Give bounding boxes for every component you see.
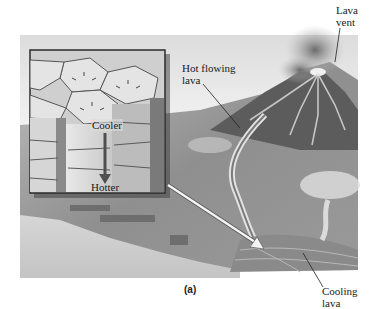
hot-flowing-lava-label-line2: lava: [182, 74, 235, 86]
volcano-landscape-graphic: [0, 0, 378, 309]
inset-hotter-label: Hotter: [91, 181, 119, 193]
hot-flowing-lava-label: Hot flowing lava: [182, 62, 235, 86]
cooling-lava-label-line2: lava: [322, 297, 357, 309]
cooling-lava-label: Cooling lava: [322, 285, 357, 309]
lava-vent-label: Lava vent: [336, 4, 358, 28]
lava-vent-label-line1: Lava: [336, 4, 358, 16]
lava-vent-label-line2: vent: [336, 16, 358, 28]
hot-flowing-lava-label-line1: Hot flowing: [182, 62, 235, 74]
volcano-illustration: [0, 0, 378, 309]
inset-cooler-label: Cooler: [91, 119, 123, 131]
cooling-lava-label-line1: Cooling: [322, 285, 357, 297]
figure-caption: (a): [184, 284, 196, 295]
